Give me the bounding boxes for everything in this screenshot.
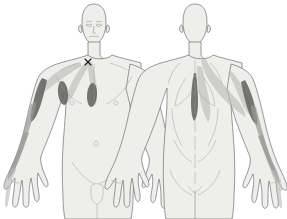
posterior-ear-right: [207, 25, 210, 33]
anterior-ear-right: [106, 25, 109, 33]
anterior-ear-left: [79, 25, 82, 33]
posterior-ear-left: [180, 25, 183, 33]
posterior-head: [183, 4, 207, 45]
anterior-head: [82, 4, 106, 45]
pain-pattern-figure: Trigger point referred pain pattern Ante…: [0, 0, 287, 219]
